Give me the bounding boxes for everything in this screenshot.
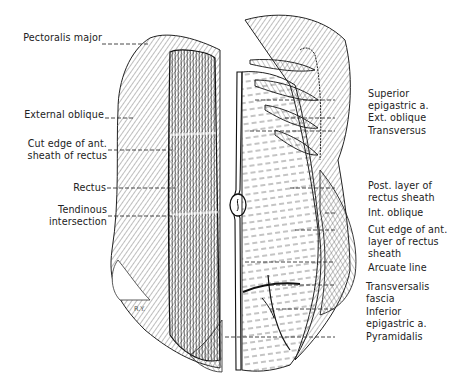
- label-rectus: Rectus: [73, 182, 106, 194]
- left-rectus: [169, 50, 223, 372]
- artist-signature: R.Y.: [134, 305, 145, 313]
- label-transversalis-fascia: Transversalis fascia: [366, 281, 429, 305]
- label-cut-edge-ant-layer: Cut edge of ant. layer of rectus sheath: [368, 224, 447, 260]
- label-superior-epigastric: Superior epigastric a.: [368, 88, 429, 112]
- label-tendinous-intersection: Tendinous intersection: [49, 204, 107, 228]
- label-pyramidalis: Pyramidalis: [366, 331, 423, 343]
- label-arcuate-line: Arcuate line: [368, 262, 427, 274]
- anatomy-figure: Pectoralis major External oblique Cut ed…: [0, 0, 474, 382]
- label-cut-edge-ant-sheath: Cut edge of ant. sheath of rectus: [28, 138, 107, 162]
- label-int-oblique: Int. oblique: [368, 207, 423, 219]
- label-ext-oblique: Ext. oblique: [368, 112, 426, 124]
- label-external-oblique: External oblique: [24, 109, 104, 121]
- label-inferior-epigastric: Inferior epigastric a.: [366, 306, 427, 330]
- label-pectoralis-major: Pectoralis major: [23, 32, 102, 44]
- label-transversus: Transversus: [368, 125, 426, 137]
- label-post-layer-rectus-sheath: Post. layer of rectus sheath: [368, 180, 435, 204]
